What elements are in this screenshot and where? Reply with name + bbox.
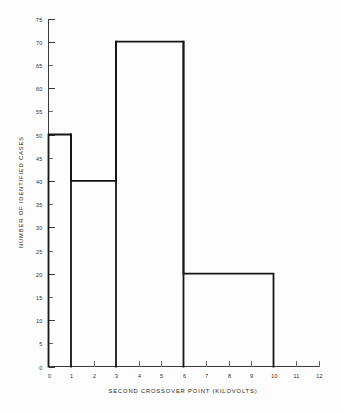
x-tick-label: 12: [316, 373, 322, 379]
y-tick-label: 15: [36, 295, 42, 301]
x-axis-ticks: [95, 361, 320, 367]
y-axis: 051015202530354045505560657075: [36, 17, 54, 371]
y-axis-title: NUMBER OF IDENTIFIED CASES: [18, 136, 24, 248]
x-tick-label: 5: [160, 373, 163, 379]
y-tick-label: 20: [36, 272, 42, 278]
y-tick-label: 5: [39, 341, 42, 347]
y-tick-label: 30: [36, 225, 42, 231]
y-tick-label: 75: [36, 17, 42, 23]
x-tick-label: 9: [250, 373, 253, 379]
histogram-chart: 051015202530354045505560657075 012345678…: [0, 0, 343, 414]
x-axis-title: SECOND CROSSOVER POINT (KILOVOLTS): [109, 388, 258, 394]
y-tick-label: 35: [36, 202, 42, 208]
y-tick-label: 55: [36, 109, 42, 115]
x-tick-label: 7: [205, 373, 208, 379]
y-tick-label: 65: [36, 63, 42, 69]
x-tick-label: 2: [93, 373, 96, 379]
x-axis: 0123456789101112: [48, 361, 323, 379]
y-tick-label: 0: [39, 365, 42, 371]
y-tick-label: 70: [36, 40, 42, 46]
x-axis-tick-labels: 0123456789101112: [48, 373, 323, 379]
y-tick-label: 45: [36, 156, 42, 162]
x-tick-label: 10: [271, 373, 277, 379]
y-tick-label: 50: [36, 133, 42, 139]
x-tick-label: 1: [70, 373, 73, 379]
y-tick-label: 10: [36, 318, 42, 324]
histogram-outline: [49, 42, 274, 367]
y-axis-tick-labels: 051015202530354045505560657075: [36, 17, 42, 371]
x-tick-label: 4: [138, 373, 141, 379]
x-tick-label: 11: [294, 373, 300, 379]
figure-canvas: 051015202530354045505560657075 012345678…: [0, 0, 343, 414]
x-tick-label: 8: [228, 373, 231, 379]
scan-artifact-footer: [0, 398, 343, 414]
x-tick-label: 3: [115, 373, 118, 379]
y-tick-label: 60: [36, 86, 42, 92]
x-tick-label: 0: [48, 373, 51, 379]
y-tick-label: 25: [36, 249, 42, 255]
x-tick-label: 6: [183, 373, 186, 379]
y-tick-label: 40: [36, 179, 42, 185]
